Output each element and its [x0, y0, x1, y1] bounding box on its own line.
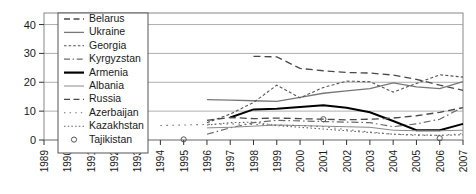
legend-label: Kyrgyzstan — [89, 52, 141, 64]
chart-legend: BelarusUkraineGeorgiaKyrgyzstanArmeniaAl… — [58, 12, 148, 153]
y-tick-label: 0 — [30, 134, 36, 146]
legend-label: Albania — [89, 79, 124, 91]
legend-label: Georgia — [89, 39, 127, 51]
y-tick-label: 20 — [24, 76, 36, 88]
legend-label: Russia — [89, 92, 121, 104]
y-tick-label: 40 — [24, 19, 36, 31]
x-tick-label: 2004 — [388, 150, 399, 173]
line-chart: 010203040 198919901991199219931994199519… — [0, 0, 476, 194]
legend-label: Belarus — [89, 12, 125, 24]
x-tick-label: 1989 — [39, 150, 50, 173]
x-tick-label: 2006 — [435, 150, 446, 173]
chart-canvas: 010203040 198919901991199219931994199519… — [0, 0, 476, 194]
legend-label: Tajikistan — [89, 133, 132, 145]
y-axis-ticks — [39, 25, 44, 140]
legend-label: Azerbaijan — [89, 106, 139, 118]
x-tick-label: 2003 — [365, 150, 376, 173]
y-tick-label: 30 — [24, 47, 36, 59]
x-tick-label: 1996 — [202, 150, 213, 173]
legend-label: Kazakhstan — [89, 119, 144, 131]
x-tick-label: 1998 — [249, 150, 260, 173]
x-tick-label: 2001 — [318, 150, 329, 173]
y-tick-label: 10 — [24, 105, 36, 117]
x-tick-label: 2000 — [295, 150, 306, 173]
x-tick-label: 1994 — [155, 150, 166, 173]
legend-label: Ukraine — [89, 25, 125, 37]
x-tick-label: 1995 — [179, 150, 190, 173]
x-tick-label: 2007 — [458, 150, 469, 173]
y-axis-tick-labels: 010203040 — [24, 19, 36, 146]
x-tick-label: 1997 — [225, 150, 236, 173]
x-tick-label: 1999 — [272, 150, 283, 173]
x-tick-label: 2005 — [411, 150, 422, 173]
legend-label: Armenia — [89, 66, 128, 78]
x-tick-label: 2002 — [342, 150, 353, 173]
